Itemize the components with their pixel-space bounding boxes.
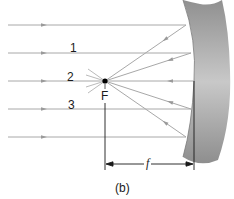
incoming-arrowheads: [41, 23, 47, 139]
arrow-left-icon: [167, 57, 174, 62]
arrow-right-icon: [41, 135, 47, 139]
arrow-right-icon: [41, 79, 47, 83]
focal-point-label: F: [101, 90, 108, 102]
arrow-right-icon: [41, 23, 47, 27]
focal-point-dot: [102, 78, 107, 83]
ray-label-2: 2: [67, 71, 74, 83]
focal-length-label: f: [144, 157, 151, 169]
arrow-right-icon: [186, 162, 193, 166]
reflected-rays: [105, 25, 194, 137]
arrow-right-icon: [41, 107, 47, 111]
figure-caption: (b): [115, 182, 130, 194]
arrow-left-icon: [167, 99, 174, 104]
ray-label-1: 1: [70, 42, 77, 54]
arrow-left-icon: [167, 79, 173, 83]
arrow-right-icon: [41, 51, 47, 55]
ray-label-3: 3: [68, 99, 75, 111]
ray-diagram: [0, 0, 234, 199]
arrow-left-icon: [106, 162, 113, 166]
concave-mirror: [183, 0, 230, 163]
